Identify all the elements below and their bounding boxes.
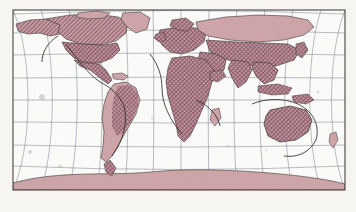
map-figure: World distribution map xyxy=(0,0,356,212)
world-map-svg: World distribution map xyxy=(0,0,356,212)
scan-grain-overlay xyxy=(13,10,345,190)
